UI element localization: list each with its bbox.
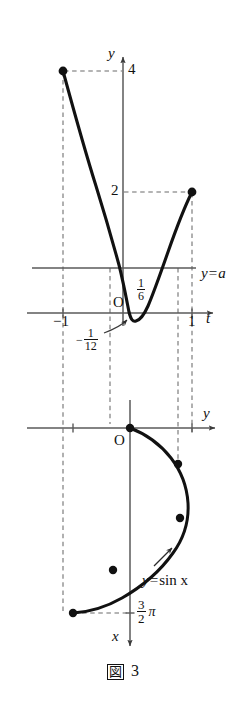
sine-label-equals: = <box>150 572 158 588</box>
vertex-y-numerator: 1 <box>84 327 98 339</box>
figure-drawing <box>0 0 252 709</box>
lower-origin-label: O <box>114 433 125 448</box>
vertex-y-value-label: − 1 12 <box>76 327 98 352</box>
vertex-x-value-label: 1 6 <box>137 277 145 302</box>
vertex-x-numerator: 1 <box>137 277 145 289</box>
sine-label-sinx: sin x <box>159 572 188 588</box>
upper-origin-label: O <box>113 295 124 310</box>
lower-y-axis-label: y <box>203 406 210 421</box>
sine-point-origin-dot <box>126 424 134 432</box>
line-label-equals: = <box>209 265 217 281</box>
upper-x-tick-minus-1: −1 <box>53 314 69 329</box>
parabola-left-endpoint-dot <box>59 67 68 76</box>
upper-y-axis-label: y <box>108 46 115 61</box>
sine-point-endpoint-dot <box>69 609 77 617</box>
upper-y-tick-4: 4 <box>128 62 136 77</box>
lower-x-axis-label: x <box>112 629 119 644</box>
vertex-x-denominator: 6 <box>137 289 145 302</box>
parabola-right-endpoint-dot <box>188 188 197 197</box>
upper-y-tick-2: 2 <box>111 183 119 198</box>
vertex-y-denominator: 12 <box>84 339 98 352</box>
line-y-equals-a-label: y=a <box>201 266 226 281</box>
sine-curve-label: y=sin x <box>142 573 188 588</box>
upper-tick-connectors <box>64 71 191 192</box>
x-mark-denominator: 2 <box>137 611 146 625</box>
parabola-curve <box>63 71 192 321</box>
line-label-a: a <box>218 265 226 281</box>
line-label-y: y <box>201 265 208 281</box>
upper-x-axis-label: t <box>206 311 210 326</box>
lower-x-mark-3pi-over-2: 3 2 π <box>137 598 156 626</box>
caption-box-glyph: 図 <box>107 664 124 680</box>
sine-point-upper-dot <box>174 460 182 468</box>
upper-x-tick-1: 1 <box>188 314 196 329</box>
sine-point-lower-dot <box>176 514 184 522</box>
sine-label-y: y <box>142 572 149 588</box>
figure-caption: 図3 <box>107 663 139 680</box>
x-mark-numerator: 3 <box>137 598 146 611</box>
vertex-y-minus-sign: − <box>76 334 83 346</box>
figure-3-container: y 4 2 O −1 1 t y=a 1 6 − 1 12 y O x y=si… <box>0 0 252 709</box>
caption-number: 3 <box>131 662 139 679</box>
pi-symbol: π <box>149 605 156 619</box>
sine-point-left-dot <box>109 566 117 574</box>
